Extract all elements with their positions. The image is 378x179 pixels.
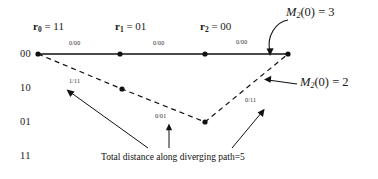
caption-arrow-right-shaft [232, 112, 262, 148]
metric-annotation-2: M2(0) = 2 [300, 76, 349, 90]
state-label-00: 00 [20, 49, 31, 60]
state-label-10: 10 [20, 83, 31, 94]
received-symbol-0: r0 = 11 [33, 21, 64, 33]
state-label-11: 11 [20, 151, 31, 162]
node-correct-3 [285, 51, 290, 56]
state-label-01: 01 [20, 117, 31, 128]
node-diverging-1 [119, 86, 124, 91]
node-correct-2 [202, 51, 207, 56]
node-correct-0 [35, 51, 40, 56]
caption-arrow-left-shaft [70, 92, 148, 148]
received-symbol-1-value: 01 [135, 20, 146, 32]
node-diverging-2 [202, 119, 207, 124]
metric-annotation-2-value: 2 [342, 75, 348, 89]
received-symbol-2-value: 00 [220, 20, 231, 32]
received-symbol-1: r1 = 01 [115, 21, 146, 33]
branch-label-correct-0: 0/00 [69, 40, 80, 46]
metric-2-arrow-head [264, 76, 271, 83]
node-correct-1 [117, 51, 122, 56]
received-symbol-0-value: 11 [53, 20, 64, 32]
metric-2-arrow-shaft [268, 80, 297, 84]
branch-label-diverging-1: 0/01 [155, 113, 166, 119]
metric-3-arrow-shaft [269, 20, 288, 52]
received-symbol-2: r2 = 00 [200, 21, 231, 33]
metric-annotation-3-value: 3 [328, 5, 334, 19]
metric-3-arrow-head [267, 48, 274, 56]
branch-label-diverging-0: 1/11 [69, 78, 80, 84]
metric-annotation-3-arg: (0) [300, 5, 315, 19]
diverging-path-line [38, 54, 288, 122]
branch-label-correct-2: 0/00 [236, 39, 247, 45]
branch-label-correct-1: 0/00 [153, 40, 164, 46]
trellis-diagram-figure: 00 10 01 11 r0 = 11 r1 = 01 r2 = 00 0/00… [0, 0, 378, 179]
metric-annotation-2-arg: (0) [314, 75, 329, 89]
caption-arrow-left-head [67, 90, 75, 98]
metric-annotation-3-name: M [286, 5, 296, 19]
metric-annotation-2-name: M [300, 75, 310, 89]
branch-label-diverging-2: 0/11 [245, 97, 256, 103]
figure-caption: Total distance along diverging path=5 [101, 153, 245, 163]
metric-annotation-3: M2(0) = 3 [286, 6, 335, 20]
caption-arrow-middle-head [166, 124, 172, 131]
